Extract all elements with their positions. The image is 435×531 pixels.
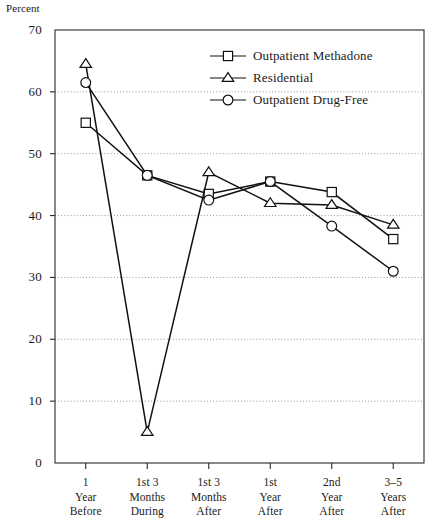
- legend-label: Outpatient Drug-Free: [249, 93, 368, 107]
- x-tick-label: 3–5YearsAfter: [360, 475, 426, 519]
- legend-item: Outpatient Methadone: [207, 45, 422, 67]
- data-point-marker: [142, 427, 154, 436]
- legend-marker-circle-icon: [207, 90, 249, 110]
- x-tick-label: 1st 3MonthsAfter: [176, 475, 242, 519]
- data-point-marker: [265, 198, 277, 207]
- data-point-marker: [326, 200, 338, 209]
- legend-item: Outpatient Drug-Free: [207, 89, 422, 111]
- x-tick-label-line: 1: [53, 475, 119, 490]
- x-tick-label-line: Months: [176, 490, 242, 505]
- x-tick-label-line: During: [114, 504, 180, 519]
- data-point-marker: [327, 221, 337, 231]
- y-axis-title: Percent: [6, 2, 40, 14]
- chart-legend: Outpatient MethadoneResidentialOutpatien…: [207, 45, 422, 111]
- x-tick-label-line: After: [360, 504, 426, 519]
- data-series-layer: [80, 59, 399, 436]
- x-tick-label-line: Months: [114, 490, 180, 505]
- x-tick-label: 1stYearAfter: [237, 475, 303, 519]
- y-tick-label: 10: [14, 394, 42, 407]
- y-tick-label: 60: [14, 85, 42, 98]
- data-point-marker: [204, 195, 214, 205]
- data-point-marker: [327, 187, 336, 196]
- legend-marker: [223, 95, 233, 105]
- x-tick-label-line: Year: [53, 490, 119, 505]
- x-tick-label-line: After: [299, 504, 365, 519]
- series-triangle: [80, 59, 399, 436]
- x-tick-label-line: After: [176, 504, 242, 519]
- legend-marker-triangle-icon: [207, 68, 249, 88]
- x-tick-label-line: After: [237, 504, 303, 519]
- x-tick-label-line: 1st 3: [114, 475, 180, 490]
- data-point-marker: [142, 170, 152, 180]
- y-tick-label: 50: [14, 147, 42, 160]
- x-tick-label-line: Year: [299, 490, 365, 505]
- data-point-marker: [389, 234, 398, 243]
- x-tick-label: 1st 3MonthsDuring: [114, 475, 180, 519]
- legend-label: Outpatient Methadone: [249, 49, 373, 63]
- x-tick-label: 2ndYearAfter: [299, 475, 365, 519]
- gridlines: [55, 92, 424, 401]
- legend-marker-square-icon: [207, 46, 249, 66]
- x-tick-label-line: 1st 3: [176, 475, 242, 490]
- series-line: [86, 123, 394, 239]
- data-point-marker: [81, 78, 91, 88]
- legend-item: Residential: [207, 67, 422, 89]
- data-point-marker: [265, 177, 275, 187]
- data-point-marker: [80, 59, 92, 68]
- chart-container: Percent 010203040506070 1YearBefore1st 3…: [0, 0, 435, 531]
- x-tick-label-line: 3–5: [360, 475, 426, 490]
- x-tick-label-line: Before: [53, 504, 119, 519]
- y-tick-label: 70: [14, 23, 42, 36]
- x-tick-label-line: Years: [360, 490, 426, 505]
- x-tick-label: 1YearBefore: [53, 475, 119, 519]
- series-square: [81, 118, 398, 243]
- y-tick-label: 30: [14, 270, 42, 283]
- y-tick-label: 0: [14, 456, 42, 469]
- data-point-marker: [81, 118, 90, 127]
- y-tick-label: 40: [14, 209, 42, 222]
- x-tick-label-line: 2nd: [299, 475, 365, 490]
- legend-marker: [223, 51, 232, 60]
- series-line: [86, 64, 394, 432]
- legend-label: Residential: [249, 71, 313, 85]
- data-point-marker: [388, 266, 398, 276]
- x-tick-label-line: Year: [237, 490, 303, 505]
- legend-marker: [222, 73, 234, 82]
- y-tick-label: 20: [14, 332, 42, 345]
- data-point-marker: [203, 167, 215, 176]
- x-tick-label-line: 1st: [237, 475, 303, 490]
- axis-tickmarks: [50, 92, 393, 469]
